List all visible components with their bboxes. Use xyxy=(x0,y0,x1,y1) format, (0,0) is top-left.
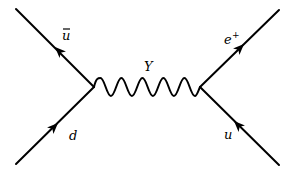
feynman-diagram: u d Y e + u xyxy=(0,0,293,174)
svg-text:u: u xyxy=(62,28,70,43)
svg-text:e: e xyxy=(224,32,232,47)
ubar-line xyxy=(16,9,94,87)
d-label: d xyxy=(69,128,77,143)
boson-propagator xyxy=(94,78,200,96)
ubar-label: u xyxy=(62,28,70,43)
eplus-label: e + xyxy=(224,30,240,47)
u-label: u xyxy=(224,127,232,142)
boson-label: Y xyxy=(144,59,154,74)
svg-text:+: + xyxy=(232,30,240,40)
